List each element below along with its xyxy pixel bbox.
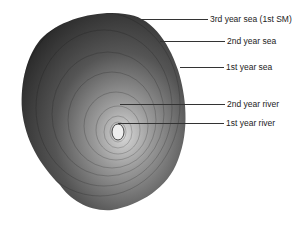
leader-line (140, 19, 208, 20)
leader-line (118, 123, 224, 124)
label-text: 2nd year river (227, 99, 279, 109)
label-text: 1st year river (226, 118, 275, 128)
leader-line (120, 104, 225, 105)
label-text: 1st year sea (226, 62, 272, 72)
label-text: 2nd year sea (227, 36, 276, 46)
label-text: 3rd year sea (1st SM) (210, 14, 292, 24)
leader-line (160, 41, 225, 42)
fish-scale-illustration (0, 0, 296, 230)
leader-line (180, 67, 224, 68)
